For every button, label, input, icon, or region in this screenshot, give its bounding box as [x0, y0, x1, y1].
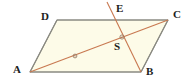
label-point-b: B: [146, 66, 154, 77]
label-point-e: E: [116, 3, 124, 14]
label-point-c: C: [173, 9, 181, 20]
label-point-a: A: [13, 64, 21, 75]
geometry-figure: A B C D E S: [0, 0, 196, 82]
label-point-d: D: [41, 11, 49, 22]
label-point-s: S: [114, 41, 120, 52]
geometry-canvas: [0, 0, 196, 82]
